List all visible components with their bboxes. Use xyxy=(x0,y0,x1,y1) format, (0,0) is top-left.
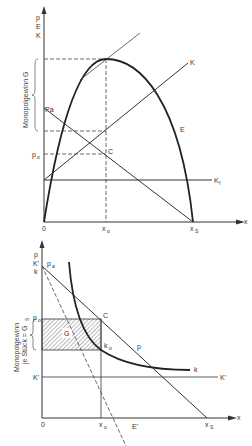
bottom-label-pa-sub: a xyxy=(52,263,55,269)
top-label-x0: x xyxy=(102,225,106,232)
bottom-x-axis-arrow-icon xyxy=(228,416,237,421)
bottom-label-origin: 0 xyxy=(41,421,45,428)
top-label-xs: x xyxy=(190,225,194,232)
top-label-origin: 0 xyxy=(42,225,46,232)
top-label-kf-sub: f xyxy=(219,180,221,186)
bottom-label-k: k xyxy=(194,366,198,373)
bottom-label-p: p xyxy=(137,343,141,351)
bottom-unit-cost-curve-k xyxy=(69,262,190,370)
top-revenue-curve-e xyxy=(44,59,193,222)
bottom-brace-label-sub: S xyxy=(24,317,30,321)
top-profit-brace xyxy=(32,59,38,131)
bottom-diagram: p K' k x Monopolgewinn je Stück = G S p … xyxy=(13,240,241,446)
top-label-p0: p xyxy=(32,151,36,159)
bottom-label-xs: x xyxy=(205,421,209,428)
top-brace-label: Monopolgewinn G xyxy=(22,72,30,128)
bottom-y-axis-arrow-icon xyxy=(40,240,45,248)
top-label-e: E xyxy=(180,126,185,133)
bottom-y-label-k: k xyxy=(34,268,38,275)
bottom-label-x0-sub: o xyxy=(104,424,107,430)
top-y-label-k: K xyxy=(36,32,41,39)
bottom-brace-label-line1: Monopolgewinn xyxy=(13,323,21,372)
bottom-label-g: G xyxy=(64,330,69,337)
top-demand-line xyxy=(44,108,193,222)
bottom-label-c: C xyxy=(103,312,108,319)
bottom-label-kprime-left: K' xyxy=(33,374,39,381)
top-y-label-p: p xyxy=(36,14,40,22)
bottom-x-label: x xyxy=(237,414,241,421)
bottom-brace-label-line2: je Stück = G xyxy=(21,326,29,365)
bottom-label-kprime-right: K' xyxy=(220,374,226,381)
bottom-label-x0: x xyxy=(99,421,103,428)
bottom-label-p0: p xyxy=(33,314,37,322)
top-label-p0-sub: o xyxy=(37,154,40,160)
top-label-x0-sub: o xyxy=(107,228,110,234)
bottom-y-label-p: p xyxy=(34,251,38,259)
top-label-c: C xyxy=(108,148,113,155)
top-x-label: x xyxy=(244,218,248,225)
top-y-axis-arrow-icon xyxy=(42,6,47,14)
top-y-label-e: E xyxy=(36,23,41,30)
bottom-label-p0-sub: o xyxy=(38,317,41,323)
bottom-y-label-kprime: K' xyxy=(33,260,39,267)
bottom-label-pa: p xyxy=(47,260,51,268)
bottom-label-eprime: E' xyxy=(132,423,138,430)
monopoly-diagrams: p E K x Monopolgewinn G Pa p o C K E K f… xyxy=(0,0,252,446)
top-tangent-line xyxy=(80,33,140,80)
bottom-label-k0: k xyxy=(104,342,108,349)
top-label-xs-sub: S xyxy=(195,228,199,234)
bottom-label-k0-sub: o xyxy=(109,345,112,351)
top-diagram: p E K x Monopolgewinn G Pa p o C K E K f… xyxy=(22,6,248,234)
bottom-profit-brace xyxy=(30,319,36,350)
top-label-k: K xyxy=(190,59,195,66)
bottom-label-xs-sub: S xyxy=(210,424,214,430)
top-label-pa: Pa xyxy=(45,106,54,113)
